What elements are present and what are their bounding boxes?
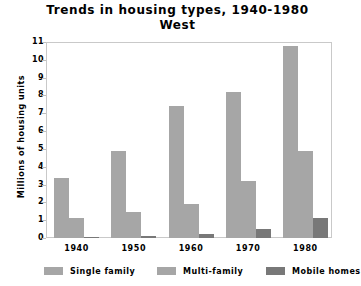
y-tick-label: 4 <box>4 163 44 171</box>
y-tick-label: 0 <box>4 234 44 242</box>
bar-group-1950 <box>111 42 156 238</box>
bar-1960-mobile <box>199 234 214 238</box>
legend-swatch-icon <box>266 267 285 275</box>
bar-1950-mobile <box>141 236 156 238</box>
chart-subtitle: West <box>0 18 355 33</box>
legend-swatch-icon <box>157 267 176 275</box>
x-tick-label-1980: 1980 <box>275 244 335 253</box>
y-tick-label: 7 <box>4 109 44 117</box>
bar-group-1940 <box>54 42 99 238</box>
y-tick-label: 2 <box>4 198 44 206</box>
y-tick-label: 8 <box>4 91 44 99</box>
x-tick-label-1940: 1940 <box>47 244 107 253</box>
legend-item-multi-family[interactable]: Multi-family <box>157 264 243 278</box>
bar-1940-multi <box>69 218 84 238</box>
bar-1960-multi <box>184 204 199 238</box>
chart-title-block: Trends in housing types, 1940-1980 West <box>0 3 355 33</box>
x-tick-label-1960: 1960 <box>161 244 221 253</box>
bar-1940-mobile <box>84 237 99 238</box>
plot-area <box>46 42 332 238</box>
bar-group-1980 <box>283 42 328 238</box>
y-tick-mark <box>42 238 46 239</box>
bar-1950-single <box>111 151 126 238</box>
bar-1950-multi <box>126 212 141 238</box>
y-tick-label: 11 <box>4 38 44 46</box>
x-tick-label-1970: 1970 <box>218 244 278 253</box>
bar-1980-single <box>283 46 298 238</box>
page-title: Trends in housing types, 1940-1980 <box>0 3 355 18</box>
legend-label: Multi-family <box>183 267 243 276</box>
bar-1960-single <box>169 106 184 238</box>
legend-item-single-family[interactable]: Single family <box>44 264 135 278</box>
y-tick-label: 5 <box>4 145 44 153</box>
legend-item-mobile-homes[interactable]: Mobile homes <box>266 264 361 278</box>
chart-legend: Single familyMulti-familyMobile homes <box>0 264 355 282</box>
bar-group-1960 <box>169 42 214 238</box>
bar-1940-single <box>54 178 69 238</box>
bar-1970-single <box>226 92 241 238</box>
bar-1970-multi <box>241 181 256 238</box>
legend-swatch-icon <box>44 267 63 275</box>
legend-label: Mobile homes <box>292 267 361 276</box>
y-tick-label: 9 <box>4 74 44 82</box>
bar-1980-multi <box>298 151 313 238</box>
y-tick-label: 1 <box>4 216 44 224</box>
y-tick-label: 3 <box>4 181 44 189</box>
bar-group-1970 <box>226 42 271 238</box>
legend-label: Single family <box>70 267 135 276</box>
bar-1970-mobile <box>256 229 271 238</box>
y-tick-label: 6 <box>4 127 44 135</box>
bar-1980-mobile <box>313 218 328 238</box>
x-tick-label-1950: 1950 <box>104 244 164 253</box>
y-tick-label: 10 <box>4 56 44 64</box>
